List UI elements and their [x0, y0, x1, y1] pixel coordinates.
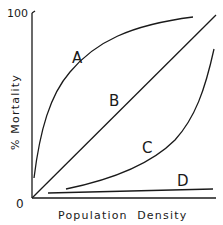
origin-label: 0	[16, 197, 24, 211]
x-axis-title: Population Density	[58, 209, 187, 222]
label-d: D	[177, 172, 189, 190]
line-b	[32, 15, 216, 198]
y-axis-title: % Mortality	[9, 74, 22, 150]
label-a: A	[72, 49, 83, 67]
mortality-density-chart: A B C D 100 0 Population Density % Morta…	[0, 0, 223, 225]
curve-c	[66, 49, 214, 189]
label-b: B	[109, 92, 119, 110]
y-tick-100: 100	[7, 7, 28, 20]
y-axis-top-tick	[32, 11, 35, 13]
label-c: C	[142, 139, 152, 157]
